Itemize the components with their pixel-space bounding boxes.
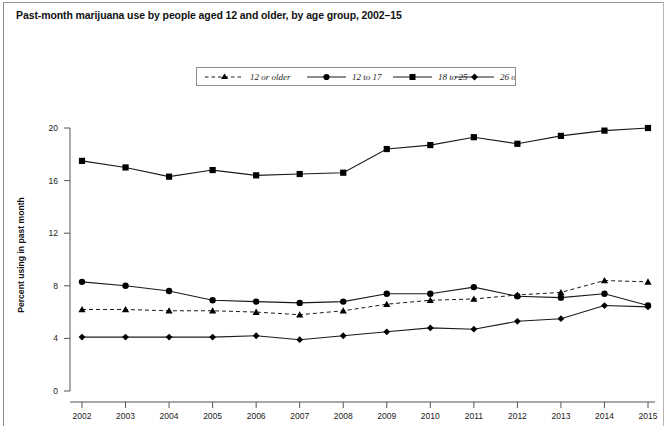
marker-diamond bbox=[340, 332, 347, 339]
marker-circle bbox=[558, 294, 564, 300]
y-tick-label: 16 bbox=[49, 176, 59, 186]
y-tick-labels: 048121620 bbox=[49, 123, 59, 396]
marker-circle bbox=[122, 283, 128, 289]
marker-triangle bbox=[644, 278, 651, 284]
marker-square bbox=[79, 158, 85, 164]
marker-triangle bbox=[557, 289, 564, 295]
x-tick-label: 2007 bbox=[290, 411, 309, 421]
marker-square bbox=[558, 133, 564, 139]
marker-diamond bbox=[166, 334, 173, 341]
data-series-layer bbox=[78, 125, 651, 343]
y-tick-label: 12 bbox=[49, 228, 59, 238]
chart-plot-area: 048121620 Percent using in past month 20… bbox=[0, 0, 667, 428]
x-tick-label: 2004 bbox=[160, 411, 179, 421]
marker-square bbox=[340, 170, 346, 176]
marker-square bbox=[166, 174, 172, 180]
marker-diamond bbox=[514, 318, 521, 325]
x-tick-marks bbox=[82, 402, 648, 408]
marker-circle bbox=[340, 298, 346, 304]
marker-square bbox=[645, 125, 651, 131]
marker-square bbox=[601, 128, 607, 134]
x-tick-label: 2005 bbox=[203, 411, 222, 421]
y-axis: 048121620 Percent using in past month bbox=[16, 123, 70, 396]
marker-diamond bbox=[296, 336, 303, 343]
figure-container: Past-month marijuana use by people aged … bbox=[0, 0, 667, 428]
y-tick-label: 8 bbox=[53, 281, 58, 291]
x-tick-label: 2006 bbox=[247, 411, 266, 421]
marker-diamond bbox=[79, 334, 86, 341]
x-tick-labels: 2002200320042005200620072008200920102011… bbox=[73, 411, 658, 421]
x-tick-label: 2015 bbox=[639, 411, 658, 421]
x-axis: 2002200320042005200620072008200920102011… bbox=[70, 402, 658, 421]
x-tick-label: 2013 bbox=[551, 411, 570, 421]
x-tick-label: 2009 bbox=[377, 411, 396, 421]
marker-circle bbox=[601, 290, 607, 296]
marker-square bbox=[427, 142, 433, 148]
marker-diamond bbox=[427, 324, 434, 331]
x-tick-label: 2002 bbox=[73, 411, 92, 421]
marker-circle bbox=[79, 279, 85, 285]
x-tick-label: 2011 bbox=[465, 411, 484, 421]
y-tick-label: 0 bbox=[53, 386, 58, 396]
series-12-to-17 bbox=[79, 279, 651, 309]
marker-circle bbox=[514, 293, 520, 299]
marker-square bbox=[297, 171, 303, 177]
marker-circle bbox=[166, 288, 172, 294]
marker-square bbox=[210, 167, 216, 173]
series-26-or-older bbox=[79, 302, 652, 343]
marker-square bbox=[384, 146, 390, 152]
marker-square bbox=[122, 164, 128, 170]
x-tick-label: 2008 bbox=[334, 411, 353, 421]
marker-square bbox=[471, 134, 477, 140]
x-tick-label: 2003 bbox=[116, 411, 135, 421]
marker-square bbox=[253, 172, 259, 178]
marker-circle bbox=[427, 290, 433, 296]
marker-circle bbox=[253, 298, 259, 304]
marker-diamond bbox=[209, 334, 216, 341]
y-tick-label: 20 bbox=[49, 123, 59, 133]
marker-triangle bbox=[340, 307, 347, 313]
marker-diamond bbox=[470, 326, 477, 333]
x-tick-label: 2012 bbox=[508, 411, 527, 421]
x-tick-label: 2010 bbox=[421, 411, 440, 421]
marker-diamond bbox=[383, 328, 390, 335]
x-tick-label: 2014 bbox=[595, 411, 614, 421]
marker-diamond bbox=[122, 334, 129, 341]
y-tick-label: 4 bbox=[53, 333, 58, 343]
series-18-to-25 bbox=[79, 125, 651, 180]
marker-diamond bbox=[601, 302, 608, 309]
marker-diamond bbox=[253, 332, 260, 339]
marker-circle bbox=[384, 290, 390, 296]
marker-circle bbox=[209, 297, 215, 303]
marker-circle bbox=[296, 300, 302, 306]
marker-square bbox=[514, 141, 520, 147]
y-axis-label: Percent using in past month bbox=[16, 197, 26, 313]
marker-triangle bbox=[122, 306, 129, 312]
marker-circle bbox=[471, 284, 477, 290]
marker-diamond bbox=[558, 315, 565, 322]
y-tick-marks bbox=[64, 128, 70, 391]
